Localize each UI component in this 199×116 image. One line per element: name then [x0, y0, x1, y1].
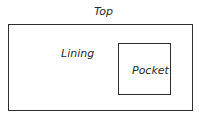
lining-label: Lining: [61, 48, 94, 59]
pocket-label: Pocket: [132, 65, 169, 76]
top-label: Top: [94, 6, 113, 17]
